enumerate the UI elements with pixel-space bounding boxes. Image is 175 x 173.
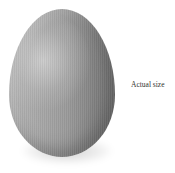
egg-texture: [9, 9, 115, 157]
egg-image: [9, 9, 115, 157]
actual-size-caption: Actual size: [131, 80, 165, 89]
